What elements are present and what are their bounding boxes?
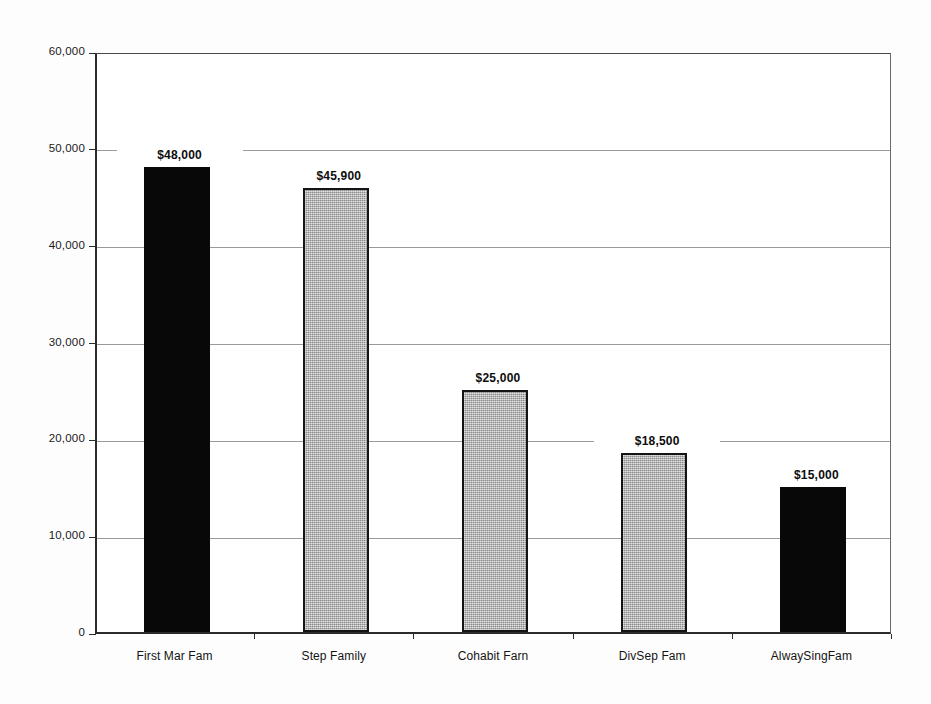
bar-value-label: $18,500 [594,434,720,448]
x-tick-mark [254,634,255,639]
y-tick-label: 20,000 [49,432,85,444]
y-tick-label: 40,000 [49,239,85,251]
x-tick-label: First Mar Fam [95,649,255,663]
y-tick-label: 60,000 [49,45,85,57]
bar [462,390,528,632]
bar-value-label: $15,000 [753,468,879,482]
y-tick-label: 10,000 [49,529,85,541]
y-tick-label: 0 [78,626,85,638]
y-tick-label: 30,000 [49,336,85,348]
x-tick-mark [732,634,733,639]
y-tick-label: 50,000 [49,142,85,154]
bar [780,487,846,632]
x-tick-label: Cohabit Farn [413,649,573,663]
x-tick-label: Step Family [254,649,414,663]
x-tick-mark [413,634,414,639]
x-tick-label: DivSep Fam [572,649,732,663]
bar-value-label: $45,900 [276,169,402,183]
gridline [97,344,890,345]
x-tick-label: AlwaySingFam [731,649,891,663]
bar [303,188,369,632]
x-tick-mark [891,634,892,639]
bar [144,167,210,632]
bar-chart-figure: 010,00020,00030,00040,00050,00060,000 $4… [0,0,931,704]
plot-area: $48,000$45,900$25,000$18,500$15,000 [95,53,891,634]
bar [621,453,687,632]
gridline [97,247,890,248]
bar-value-label: $25,000 [435,371,561,385]
bar-value-label: $48,000 [117,148,243,162]
x-tick-mark [573,634,574,639]
